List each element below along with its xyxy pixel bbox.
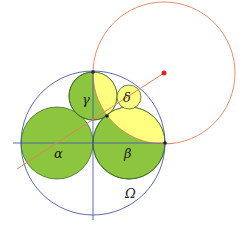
point-center-inversion bbox=[162, 71, 167, 76]
label-beta: β bbox=[123, 146, 132, 161]
label-gamma: γ bbox=[82, 92, 90, 107]
point-tangent bbox=[105, 114, 109, 118]
point-right bbox=[163, 141, 167, 145]
arbelos-diagram: α β γ δ Ω bbox=[0, 0, 243, 228]
diagram-canvas: α β γ δ Ω bbox=[0, 0, 243, 228]
point-top bbox=[91, 70, 95, 74]
label-alpha: α bbox=[54, 146, 63, 161]
label-omega: Ω bbox=[124, 186, 136, 201]
label-delta: δ bbox=[123, 90, 131, 105]
